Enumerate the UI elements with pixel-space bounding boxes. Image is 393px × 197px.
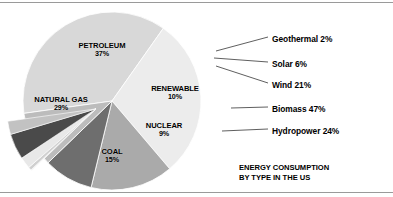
slice-label-coal: COAL 15%: [86, 148, 138, 164]
chart-caption-line-1: ENERGY CONSUMPTION: [239, 163, 329, 173]
slice-label-petroleum: PETROLEUM 37%: [60, 42, 144, 58]
chart-figure: PETROLEUM 37% NATURAL GAS 29% COAL 15% N…: [0, 0, 393, 197]
leader-line-geothermal: [216, 37, 268, 51]
slice-label-nuclear: NUCLEAR 9%: [136, 122, 192, 138]
callout-label-geothermal: Geothermal 2%: [272, 34, 332, 44]
slice-label-renewable-percent: 10%: [140, 93, 210, 101]
callout-label-hydropower: Hydropower 24%: [272, 126, 339, 136]
slice-label-natural-gas-percent: 29%: [16, 104, 106, 112]
slice-label-petroleum-percent: 37%: [60, 50, 144, 58]
leader-line-biomass: [231, 107, 268, 108]
slice-label-renewable: RENEWABLE 10%: [140, 85, 210, 101]
callout-label-solar: Solar 6%: [272, 59, 307, 69]
leader-line-hydropower: [222, 129, 268, 131]
chart-caption-line-2: BY TYPE IN THE US: [239, 173, 329, 183]
slice-label-coal-percent: 15%: [86, 156, 138, 164]
callout-label-biomass: Biomass 47%: [272, 104, 325, 114]
chart-caption: ENERGY CONSUMPTION BY TYPE IN THE US: [239, 163, 329, 183]
slice-label-nuclear-percent: 9%: [136, 130, 192, 138]
callout-label-wind: Wind 21%: [272, 80, 311, 90]
callout-leader-lines: [214, 37, 268, 131]
slice-label-natural-gas: NATURAL GAS 29%: [16, 96, 106, 112]
leader-line-wind: [216, 66, 268, 83]
leader-line-solar: [214, 58, 268, 62]
